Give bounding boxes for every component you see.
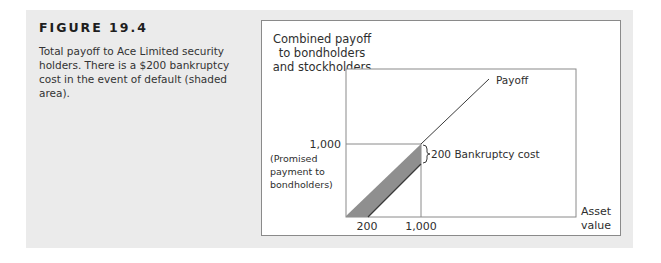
x-axis-label-line1: Asset	[581, 205, 612, 218]
payoff-label: Payoff	[496, 74, 529, 86]
bankruptcy-cost-label: 200 Bankruptcy cost	[431, 148, 540, 160]
y-tick-note-line3: bondholders)	[270, 179, 333, 190]
x-axis-label-line2: value	[581, 219, 611, 232]
y-tick-note-line2: payment to	[270, 166, 325, 177]
x-tick-200: 200	[357, 220, 378, 233]
y-axis-label-line2: to bondholders	[279, 46, 366, 60]
x-tick-1000: 1,000	[405, 220, 437, 233]
payoff-chart: Combined payoff to bondholders and stock…	[0, 0, 661, 263]
y-tick-1000: 1,000	[310, 138, 342, 151]
y-axis-label-line1: Combined payoff	[273, 32, 372, 46]
y-tick-note-line1: (Promised	[270, 153, 318, 164]
